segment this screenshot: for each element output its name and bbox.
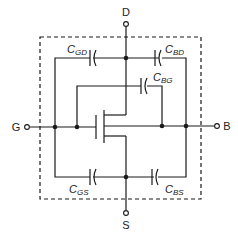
cbg-left-wire xyxy=(77,86,141,127)
cbs-label: CBS xyxy=(165,183,184,197)
cgd-label: CGD xyxy=(67,43,87,57)
source-node xyxy=(124,175,129,180)
cbg-right-wire xyxy=(147,86,162,127)
drain-label: D xyxy=(122,6,130,18)
gate-node-inner xyxy=(75,125,80,130)
device-boundary xyxy=(40,37,201,199)
body-node-outer xyxy=(184,124,189,129)
body-label: B xyxy=(223,120,230,132)
mosfet-capacitance-diagram: D G B S CGD CBD CBG CGS CBS xyxy=(0,0,238,241)
cbs-right-wire xyxy=(158,127,186,177)
gate-label: G xyxy=(12,121,21,133)
drain-node xyxy=(124,56,129,61)
cbg-label: CBG xyxy=(153,71,173,85)
source-label: S xyxy=(122,219,129,231)
cgs-left-wire xyxy=(55,127,90,177)
gate-terminal xyxy=(25,125,30,130)
cgd-left-wire xyxy=(55,58,90,127)
cgs-label: CGS xyxy=(69,183,89,197)
body-node-inner xyxy=(160,124,165,129)
body-terminal xyxy=(215,124,220,129)
cbd-curved-plate xyxy=(159,50,161,66)
cbd-label: CBD xyxy=(165,43,184,57)
cbs-curved-plate xyxy=(156,169,158,185)
gate-node-outer xyxy=(53,125,58,130)
cbd-right-wire xyxy=(162,58,186,127)
drain-terminal xyxy=(124,22,129,27)
source-terminal xyxy=(124,211,129,216)
cbg-curved-plate xyxy=(145,78,147,94)
